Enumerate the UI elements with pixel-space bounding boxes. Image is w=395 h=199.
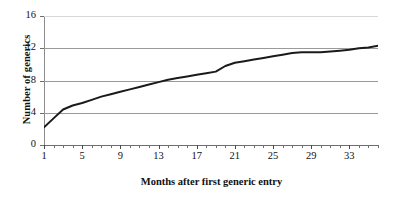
y-tick-label-8: 8	[0, 74, 36, 85]
x-tick-mark-15	[178, 145, 179, 148]
y-tick-mark-12	[40, 48, 44, 49]
data-series-line	[44, 16, 378, 145]
x-tick-mark-16	[187, 145, 188, 148]
x-tick-mark-26	[283, 145, 284, 148]
x-tick-mark-12	[149, 145, 150, 148]
x-tick-mark-13	[159, 145, 160, 149]
x-tick-mark-22	[244, 145, 245, 148]
x-axis-line	[44, 145, 379, 146]
x-tick-mark-30	[321, 145, 322, 148]
x-tick-label-9: 9	[108, 150, 132, 161]
x-tick-mark-6	[92, 145, 93, 148]
x-tick-mark-8	[111, 145, 112, 148]
y-tick-label-16: 16	[0, 9, 36, 20]
x-tick-mark-9	[120, 145, 121, 149]
x-tick-mark-24	[263, 145, 264, 148]
x-tick-mark-31	[330, 145, 331, 148]
x-tick-mark-34	[359, 145, 360, 148]
x-tick-mark-33	[349, 145, 350, 149]
x-axis-title: Months after first generic entry	[44, 176, 379, 187]
y-tick-label-12: 12	[0, 41, 36, 52]
x-tick-label-1: 1	[32, 150, 56, 161]
x-tick-mark-28	[302, 145, 303, 148]
x-tick-label-25: 25	[261, 150, 285, 161]
plot-area	[44, 16, 378, 145]
x-tick-mark-18	[206, 145, 207, 148]
x-tick-mark-17	[197, 145, 198, 149]
x-tick-mark-10	[130, 145, 131, 148]
x-tick-label-13: 13	[147, 150, 171, 161]
x-tick-mark-1	[44, 145, 45, 149]
x-tick-mark-29	[311, 145, 312, 149]
x-tick-label-17: 17	[185, 150, 209, 161]
x-tick-label-29: 29	[299, 150, 323, 161]
x-tick-mark-5	[82, 145, 83, 149]
x-tick-mark-36	[378, 145, 379, 148]
x-tick-mark-27	[292, 145, 293, 148]
x-tick-mark-14	[168, 145, 169, 148]
x-tick-mark-3	[63, 145, 64, 148]
x-tick-mark-35	[368, 145, 369, 148]
y-tick-label-4: 4	[0, 106, 36, 117]
y-tick-label-0: 0	[0, 138, 36, 149]
x-tick-mark-32	[340, 145, 341, 148]
x-tick-mark-20	[225, 145, 226, 148]
y-tick-mark-8	[40, 81, 44, 82]
x-tick-mark-2	[54, 145, 55, 148]
x-tick-label-5: 5	[70, 150, 94, 161]
x-tick-mark-11	[139, 145, 140, 148]
x-tick-mark-25	[273, 145, 274, 149]
x-tick-label-33: 33	[337, 150, 361, 161]
x-tick-label-21: 21	[223, 150, 247, 161]
y-tick-mark-16	[40, 16, 44, 17]
y-tick-mark-4	[40, 113, 44, 114]
x-tick-mark-21	[235, 145, 236, 149]
x-tick-mark-7	[101, 145, 102, 148]
x-tick-mark-19	[216, 145, 217, 148]
x-tick-mark-23	[254, 145, 255, 148]
x-tick-mark-4	[73, 145, 74, 148]
line-chart-figure: Number of generics 0481216 1591317212529…	[0, 0, 395, 199]
